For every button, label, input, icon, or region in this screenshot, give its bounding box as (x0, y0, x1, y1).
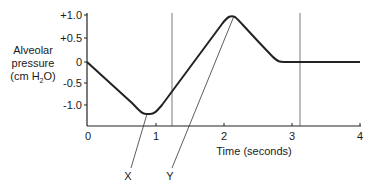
y-tick-label: +0.5 (60, 32, 82, 44)
y-axis-title-line: pressure (0, 57, 66, 70)
x-tick-label: 3 (289, 130, 295, 142)
x-tick-labels: 0 1 2 3 4 (85, 130, 363, 142)
x-tick-label: 0 (85, 130, 91, 142)
y-axis-title-line: Alveolar (0, 44, 66, 57)
chart-canvas: +1.0 +0.5 0 -0.5 -1.0 0 1 2 3 4 Time (se… (0, 0, 370, 186)
annotation-y-label: Y (166, 170, 174, 182)
x-tick-label: 2 (221, 130, 227, 142)
x-axis-title: Time (seconds) (216, 145, 291, 157)
annotation-x-leader (131, 114, 147, 168)
annotation-x-label: X (124, 170, 132, 182)
y-axis-title: Alveolar pressure (cm H2O) (0, 44, 66, 87)
pressure-curve (87, 16, 360, 114)
y-tick-label: 0 (76, 56, 82, 68)
y-tick-label: -1.0 (63, 99, 82, 111)
y-tick-label: +1.0 (60, 9, 82, 21)
x-tick-label: 4 (357, 130, 363, 142)
x-tick-label: 1 (153, 130, 159, 142)
y-axis-title-line: (cm H2O) (0, 70, 66, 87)
